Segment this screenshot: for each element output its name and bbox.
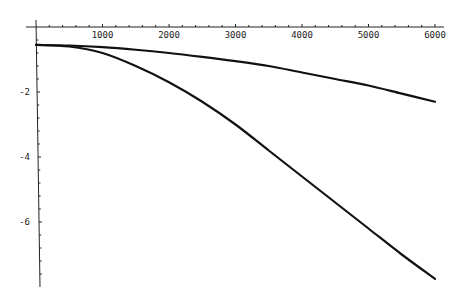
y-tick-label: -6 <box>19 217 30 227</box>
line-chart: 100020003000400050006000-2-4-6 <box>0 0 463 296</box>
x-tick-label: 5000 <box>358 30 380 40</box>
x-tick-label: 3000 <box>225 30 247 40</box>
y-axis <box>36 20 40 287</box>
x-tick-label: 1000 <box>92 30 114 40</box>
y-tick-label: -2 <box>19 87 30 97</box>
y-tick-label: -4 <box>19 152 30 162</box>
upper-curve-line <box>36 45 435 102</box>
series-group <box>36 45 435 279</box>
x-tick-label: 2000 <box>158 30 180 40</box>
lower-curve-line <box>36 45 435 279</box>
x-tick-label: 6000 <box>424 30 446 40</box>
x-tick-label: 4000 <box>291 30 313 40</box>
